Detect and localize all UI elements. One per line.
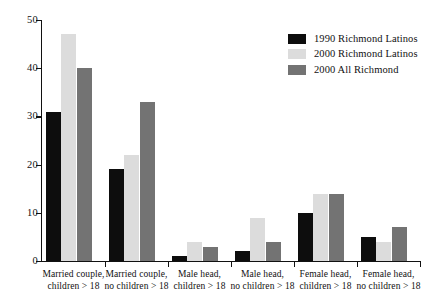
bar [298,213,313,261]
x-tick-mark [168,261,169,267]
legend-item: 2000 Richmond Latinos [288,47,418,63]
bar [172,256,187,261]
bar [124,155,139,261]
bar [376,242,391,261]
bar [109,169,124,261]
y-tick-label: 50 [27,15,38,26]
x-tick-mark [357,261,358,267]
y-tick-label: 30 [27,111,38,122]
legend-label: 2000 All Richmond [314,65,399,76]
bar [77,68,92,261]
bar-group [168,20,231,261]
bar-group [105,20,168,261]
bar [187,242,202,261]
legend-label: 2000 Richmond Latinos [314,49,418,60]
bar [46,112,61,261]
bar [266,242,281,261]
y-tick-label: 0 [33,256,38,267]
category-label: Female head, no children > 18 [349,269,428,292]
legend: 1990 Richmond Latinos2000 Richmond Latin… [288,31,418,78]
x-tick-mark [231,261,232,267]
legend-item: 1990 Richmond Latinos [288,31,418,47]
bar-chart: 01020304050 Married couple, children > 1… [0,0,430,308]
bar [250,218,265,261]
bar [203,247,218,261]
legend-item: 2000 All Richmond [288,62,418,78]
bar [392,227,407,261]
y-tick-label: 20 [27,159,38,170]
bar [140,102,155,261]
x-tick-mark [294,261,295,267]
legend-label: 1990 Richmond Latinos [314,34,418,45]
y-tick-label: 40 [27,63,38,74]
legend-swatch [288,34,306,44]
bar [61,34,76,261]
x-tick-mark [420,261,421,267]
legend-swatch [288,65,306,75]
bar-group [42,20,105,261]
bar [329,194,344,261]
bar [235,251,250,261]
x-tick-mark [105,261,106,267]
bar [313,194,328,261]
bar [361,237,376,261]
legend-swatch [288,49,306,59]
bar-group [231,20,294,261]
y-tick-label: 10 [27,208,38,219]
